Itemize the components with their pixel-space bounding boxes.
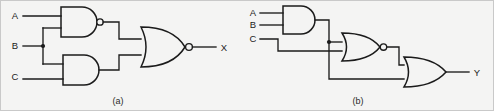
circuit-canvas: A B C X (a) A B: [1, 1, 494, 111]
input-label-b-b-circuit: B: [250, 19, 256, 30]
junction-dot-and-output-b: [327, 40, 331, 44]
and-gate-body-b: [283, 6, 315, 34]
and-gate-body: [63, 55, 99, 85]
nor-gate-inversion-bubble-b: [380, 44, 386, 50]
circuit-a: A B C X (a): [12, 7, 228, 106]
output-label-x: X: [221, 42, 228, 53]
input-label-a-b-circuit: A: [250, 7, 257, 18]
nand-gate-body: [61, 7, 97, 37]
output-label-y: Y: [474, 67, 481, 78]
nor-gate-body: [141, 27, 185, 67]
input-label-c: C: [12, 71, 19, 82]
input-label-b: B: [12, 40, 18, 51]
caption-a: (a): [113, 96, 124, 106]
input-label-a: A: [12, 10, 19, 21]
nand-gate-inversion-bubble: [97, 19, 103, 25]
nor-gate-body-b: [342, 33, 380, 61]
circuit-b: A B C Y (b): [250, 6, 481, 106]
junction-dot-b: [41, 44, 45, 48]
wire-and-to-nor: [99, 55, 141, 70]
wire-and-out-b: [315, 20, 329, 42]
or-gate-body-b: [404, 57, 446, 87]
input-label-c-b-circuit: C: [250, 33, 257, 44]
wire-nand-to-nor: [103, 22, 141, 39]
nor-gate-inversion-bubble: [186, 44, 193, 51]
caption-b: (b): [353, 96, 364, 106]
wire-nor-to-or-b: [387, 47, 404, 65]
logic-circuit-figure: A B C X (a) A B: [0, 0, 494, 111]
